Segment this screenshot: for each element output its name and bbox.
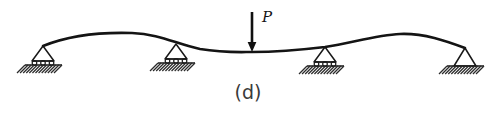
support-4 (439, 48, 484, 74)
figure-caption: (d) (235, 81, 262, 103)
load-arrow-head (248, 42, 257, 52)
support-4-triangle (454, 48, 476, 66)
support-2-ground-hatch (150, 63, 195, 71)
point-load-group: P (248, 8, 273, 52)
support-1 (17, 46, 62, 73)
beam-diagram-figure: P (d) (0, 0, 497, 113)
beam-diagram-canvas: P (d) (0, 0, 497, 113)
support-3-ground-hatch (299, 66, 344, 74)
support-4-ground-hatch (439, 66, 484, 74)
support-1-ground-hatch (17, 65, 62, 73)
support-2-triangle (165, 44, 187, 59)
support-3 (299, 47, 344, 74)
support-2 (150, 44, 195, 71)
support-3-triangle (314, 47, 336, 62)
support-1-triangle (32, 46, 54, 61)
load-label-P: P (261, 8, 273, 26)
